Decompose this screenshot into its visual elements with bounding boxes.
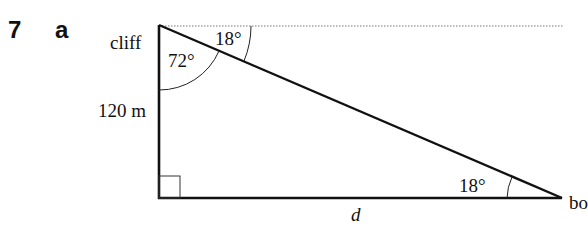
angle-18-bottom-label: 18° — [459, 175, 486, 197]
right-angle-marker — [159, 176, 180, 198]
hypotenuse — [159, 25, 562, 198]
boat-label: bo — [569, 192, 588, 214]
height-label: 120 m — [98, 100, 146, 122]
angle-arc-18-top — [244, 26, 251, 61]
base-label-d: d — [351, 204, 361, 226]
angle-72-label: 72° — [168, 50, 195, 72]
cliff-label: cliff — [110, 32, 141, 54]
angle-18-top-label: 18° — [215, 28, 242, 50]
angle-arc-18-bottom — [507, 177, 512, 198]
